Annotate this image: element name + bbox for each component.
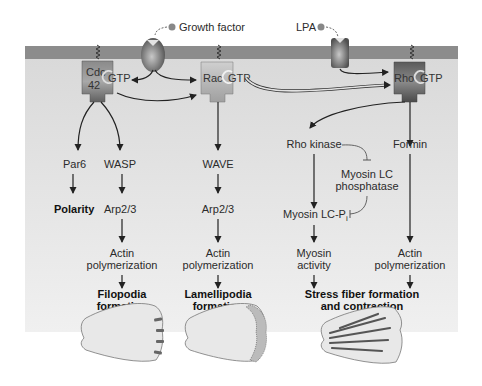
wasp-label: WASP	[104, 158, 136, 170]
actin-polymerization-label-1b: polymerization	[87, 259, 158, 271]
actin-polymerization-label-1a: Actin	[110, 247, 134, 259]
polarity-label: Polarity	[54, 203, 95, 215]
par6-label: Par6	[63, 158, 86, 170]
actin-polymerization-label-3b: polymerization	[375, 259, 446, 271]
svg-text:GTP: GTP	[420, 72, 443, 84]
svg-text:Growth factor: Growth factor	[179, 21, 245, 33]
actin-polymerization-label-3a: Actin	[398, 247, 422, 259]
svg-text:GTP: GTP	[108, 72, 131, 84]
actin-polymerization-label-2a: Actin	[206, 247, 230, 259]
svg-text:Rac: Rac	[203, 72, 223, 84]
plasma-membrane	[25, 46, 458, 59]
myosin-activity-label-a: Myosin	[297, 247, 332, 259]
myosin-lc-phosphatase-a: Myosin LC	[341, 168, 393, 180]
rho-gtpase-signaling-diagram: Growth factor LPA Cdc 42 GTP Rac GTP	[0, 0, 482, 386]
rho-kinase-label: Rho kinase	[286, 138, 341, 150]
svg-text:LPA: LPA	[296, 21, 317, 33]
filopodia-label-a: Filopodia	[98, 288, 148, 300]
lamellipodia-label-a: Lamellipodia	[184, 288, 252, 300]
stress-fiber-label-a: Stress fiber formation	[305, 288, 420, 300]
myosin-activity-label-b: activity	[297, 259, 331, 271]
arp23-label-1: Arp2/3	[104, 203, 136, 215]
growth-factor-receptor	[141, 38, 165, 72]
arp23-label-2: Arp2/3	[202, 203, 234, 215]
wave-label: WAVE	[202, 158, 233, 170]
growth-factor-ligand: Growth factor	[155, 21, 245, 35]
myosin-lc-phosphatase-b: phosphatase	[336, 180, 399, 192]
lpa-ligand: LPA	[296, 21, 338, 37]
actin-polymerization-label-2b: polymerization	[183, 259, 254, 271]
svg-text:42: 42	[88, 79, 100, 91]
lpa-receptor	[331, 38, 349, 68]
svg-text:Rho: Rho	[394, 72, 414, 84]
formin-label: Formin	[393, 138, 427, 150]
